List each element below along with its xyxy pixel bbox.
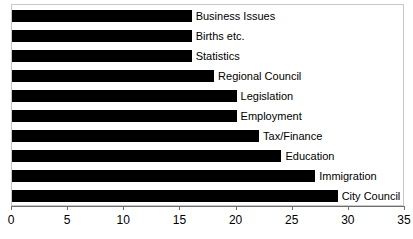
x-tick-label: 15 [173, 213, 186, 227]
bar-label: Business Issues [192, 11, 275, 22]
x-axis-line [11, 206, 404, 207]
x-tick-label: 0 [8, 213, 15, 227]
bar [12, 50, 192, 62]
bar [12, 110, 237, 122]
bar-label: City Council [338, 191, 401, 202]
plot-area: Business IssuesBirths etc.StatisticsRegi… [11, 4, 404, 206]
bar-row: Education [12, 146, 403, 166]
bar [12, 30, 192, 42]
bar-row: Immigration [12, 166, 403, 186]
bar-row: Regional Council [12, 66, 403, 86]
bar-label: Education [281, 151, 334, 162]
x-tick [123, 206, 124, 210]
x-tick [11, 206, 12, 210]
bar-row: Legislation [12, 86, 403, 106]
bar-row: City Council [12, 186, 403, 206]
x-tick-label: 35 [397, 213, 410, 227]
bar-row: Employment [12, 106, 403, 126]
bar-row: Statistics [12, 46, 403, 66]
x-tick [67, 206, 68, 210]
x-tick [292, 206, 293, 210]
bar-label: Immigration [315, 171, 376, 182]
x-tick-label: 5 [64, 213, 71, 227]
x-tick [348, 206, 349, 210]
bar-label: Statistics [192, 51, 240, 62]
bar [12, 90, 237, 102]
bar-row: Births etc. [12, 26, 403, 46]
x-tick-label: 30 [341, 213, 354, 227]
x-tick-label: 20 [229, 213, 242, 227]
x-tick [179, 206, 180, 210]
bar-label: Births etc. [192, 31, 245, 42]
bar [12, 130, 259, 142]
x-tick [236, 206, 237, 210]
bar [12, 190, 338, 202]
bar [12, 150, 281, 162]
x-tick-label: 10 [117, 213, 130, 227]
bar-row: Business Issues [12, 6, 403, 26]
bar-label: Regional Council [214, 71, 301, 82]
bar-chart: Business IssuesBirths etc.StatisticsRegi… [0, 0, 413, 239]
x-tick-label: 25 [285, 213, 298, 227]
bar-label: Legislation [237, 91, 294, 102]
bar [12, 170, 315, 182]
bar [12, 70, 214, 82]
bar-label: Tax/Finance [259, 131, 322, 142]
bar-row: Tax/Finance [12, 126, 403, 146]
bar-label: Employment [237, 111, 302, 122]
bar [12, 10, 192, 22]
x-tick [404, 206, 405, 210]
